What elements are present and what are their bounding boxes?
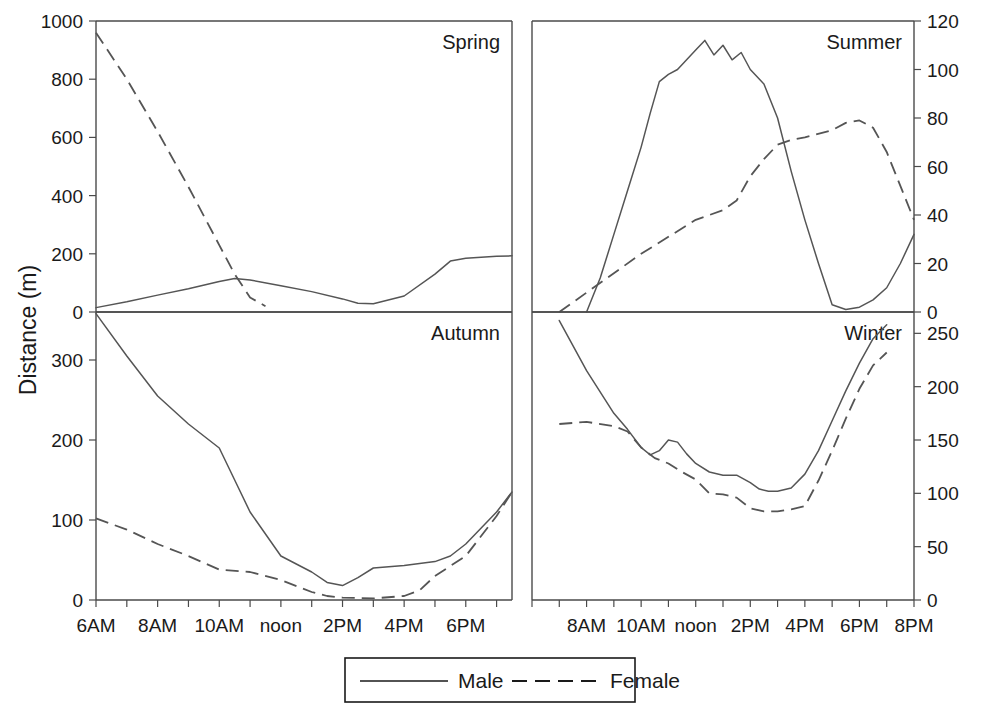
series-winter-male [559,321,886,492]
x-tick-label-autumn-10: 4PM [385,615,424,636]
x-tick-label-autumn-8: 2PM [323,615,362,636]
x-tick-label-winter-12: 6PM [840,615,879,636]
y-tick-label-summer-0: 0 [927,302,938,323]
y-tick-label-winter-250: 250 [927,323,959,344]
y-tick-label-autumn-200: 200 [51,430,83,451]
y-tick-label-spring-400: 400 [51,186,83,207]
legend: Male Female [345,658,680,702]
x-tick-label-winter-2: 8AM [567,615,606,636]
y-tick-label-autumn-0: 0 [72,590,83,611]
y-axis-title: Distance (m) [15,265,41,395]
panel-title-winter: Winter [844,322,902,344]
y-axis-title-text: Distance (m) [15,265,41,395]
x-tick-label-winter-6: noon [675,615,717,636]
seasonal-distance-chart: Distance (m) 02004006008001000Spring0204… [0,0,981,720]
series-autumn-female [96,492,512,598]
x-tick-label-autumn-4: 10AM [194,615,244,636]
x-tick-label-winter-14: 8PM [894,615,933,636]
plot-layer: 02004006008001000Spring020406080100120Su… [41,11,959,636]
y-tick-label-winter-150: 150 [927,430,959,451]
panel-title-spring: Spring [442,31,500,53]
y-tick-label-summer-100: 100 [927,60,959,81]
y-tick-label-summer-40: 40 [927,205,948,226]
legend-label-female: Female [610,669,680,692]
y-tick-label-spring-1000: 1000 [41,11,83,32]
series-spring-male [96,256,512,308]
y-tick-label-spring-600: 600 [51,127,83,148]
x-tick-label-autumn-6: noon [260,615,302,636]
y-tick-label-winter-200: 200 [927,377,959,398]
y-tick-label-spring-0: 0 [72,302,83,323]
x-tick-label-autumn-2: 8AM [138,615,177,636]
y-tick-label-winter-50: 50 [927,537,948,558]
y-tick-label-summer-80: 80 [927,108,948,129]
series-spring-female [96,33,265,307]
chart-figure: Distance (m) 02004006008001000Spring0204… [0,0,981,720]
series-summer-female [559,120,914,312]
y-tick-label-autumn-100: 100 [51,510,83,531]
y-tick-label-winter-0: 0 [927,590,938,611]
y-tick-label-summer-120: 120 [927,11,959,32]
panel-title-autumn: Autumn [431,322,500,344]
y-tick-label-autumn-300: 300 [51,350,83,371]
x-tick-label-winter-10: 4PM [785,615,824,636]
y-tick-label-summer-20: 20 [927,254,948,275]
x-tick-label-winter-4: 10AM [616,615,666,636]
panel-title-summer: Summer [826,31,902,53]
x-tick-label-winter-8: 2PM [731,615,770,636]
legend-label-male: Male [458,669,504,692]
series-summer-male [587,40,914,312]
x-tick-label-autumn-12: 6PM [446,615,485,636]
y-tick-label-spring-800: 800 [51,69,83,90]
series-winter-female [559,353,886,512]
y-tick-label-summer-60: 60 [927,157,948,178]
x-tick-label-autumn-0: 6AM [76,615,115,636]
y-tick-label-winter-100: 100 [927,483,959,504]
y-tick-label-spring-200: 200 [51,244,83,265]
